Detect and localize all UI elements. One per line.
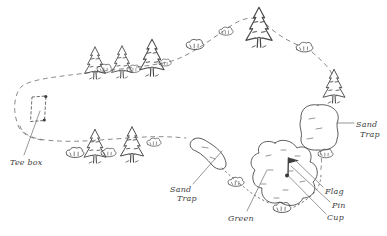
boundary-green-surround (222, 168, 321, 207)
pine-tree-icon (84, 129, 106, 163)
sand-trap-fairway-label-line2: Trap (177, 194, 197, 203)
sand-trap-right-label-line1: Sand (356, 120, 377, 129)
green-pointer (247, 170, 267, 211)
pine-tree-icon (85, 47, 106, 79)
bush-icon (186, 39, 204, 49)
bush-icon (219, 27, 233, 35)
bush-icon (228, 177, 244, 186)
fairway-outline (15, 18, 332, 207)
bush-icon (147, 138, 161, 146)
bush-icon (66, 147, 84, 157)
bush-icon (273, 202, 291, 212)
sand-trap-right (300, 105, 338, 150)
boundary-bottom (20, 126, 186, 141)
cup-label: Cup (327, 213, 344, 222)
tee-box-label: Tee box (10, 158, 43, 167)
sand-trap-right-label-line2: Trap (360, 130, 380, 139)
tee-marker-icon (44, 95, 47, 98)
sand-trap-fairway-pointer (193, 151, 222, 184)
pine-tree-icon (323, 69, 345, 103)
trees (84, 7, 345, 163)
golf-hole-sketch: Tee box Sand Trap Green Sand Trap Flag P… (0, 0, 387, 236)
sand-trap-fairway-label-line1: Sand (170, 185, 191, 194)
bushes (66, 27, 333, 212)
boundary-top-right (266, 24, 332, 74)
cup-pointer (289, 177, 326, 215)
green (251, 140, 317, 205)
boundary-top (15, 18, 258, 140)
pine-tree-icon (112, 46, 133, 78)
pine-tree-icon (140, 39, 164, 76)
green-grass-texture (261, 150, 305, 198)
labels: Tee box Sand Trap Green Sand Trap Flag P… (10, 120, 380, 223)
tee-box (31, 95, 48, 122)
pine-tree-icon (120, 127, 143, 162)
tee-marker-icon (43, 118, 46, 121)
sand-trap-fairway (190, 138, 226, 169)
pin-label: Pin (331, 201, 346, 210)
flagstick (285, 158, 299, 178)
flag-label: Flag (324, 187, 344, 196)
cup-dot (285, 174, 289, 178)
pine-tree-icon (246, 7, 272, 47)
tee-box-pointer (24, 111, 40, 155)
sketch-canvas: Tee box Sand Trap Green Sand Trap Flag P… (0, 0, 387, 236)
bush-icon (296, 42, 313, 52)
green-label: Green (228, 214, 254, 223)
